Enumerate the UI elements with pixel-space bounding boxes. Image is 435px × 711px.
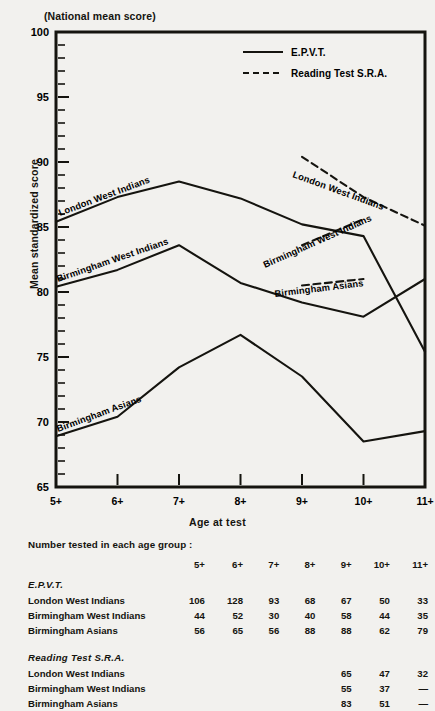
table-row: Birmingham West Indians5537— (28, 681, 428, 696)
table-cell-value (205, 681, 243, 696)
table-cell-value: 51 (352, 696, 390, 711)
counts-table-caption: Number tested in each age group : (28, 539, 192, 550)
table-group-heading: E.P.V.T. (28, 572, 428, 593)
table-row-label: Birmingham Asians (28, 623, 167, 638)
table-cell-value (167, 696, 205, 711)
table-cell-value: 79 (390, 623, 428, 638)
counts-table-head: 5+6+7+8+9+10+11+ (28, 553, 428, 572)
curve-label-sra-london: London West Indians (291, 169, 385, 211)
curve-label-epvt-birmingham-wi: Birmingham West Indians (55, 236, 169, 284)
table-cell-value: 65 (315, 666, 351, 681)
curve-label-sra-birmingham-wi: Birmingham West Indians (262, 213, 373, 270)
table-cell-value (167, 681, 205, 696)
table-row-label: Birmingham Asians (28, 696, 167, 711)
table-row: Birmingham Asians8351— (28, 696, 428, 711)
table-group-heading-row: E.P.V.T. (28, 572, 428, 593)
counts-table-body: E.P.V.T.London West Indians1061289368675… (28, 572, 428, 711)
table-cell-value (279, 681, 315, 696)
y-tick-label: 80 (37, 286, 49, 298)
table-cell-value (279, 696, 315, 711)
table-cell-value: 128 (205, 593, 243, 608)
table-cell-value: 52 (205, 608, 243, 623)
x-tick-label: 9+ (296, 495, 308, 507)
table-spacer-cell (28, 638, 428, 645)
x-tick-label: 10+ (355, 495, 373, 507)
curve-label-epvt-birmingham-asians: Birmingham Asians (55, 394, 143, 434)
legend-label-epvt: E.P.V.T. (291, 47, 326, 58)
legend: E.P.V.T. Reading Test S.R.A. (243, 47, 387, 79)
counts-table-corner (28, 553, 167, 572)
x-tick-label: 8+ (235, 495, 247, 507)
x-axis-ticks (118, 474, 364, 485)
table-cell-value (243, 696, 279, 711)
table-row-label: London West Indians (28, 666, 167, 681)
table-row: London West Indians654732 (28, 666, 428, 681)
y-axis-tick-labels: 65707580859095100 (31, 26, 49, 493)
table-cell-value: 55 (315, 681, 351, 696)
x-tick-label: 5+ (50, 495, 62, 507)
counts-col-header: 5+ (167, 553, 205, 572)
counts-col-header: 9+ (315, 553, 351, 572)
table-cell-value: 47 (352, 666, 390, 681)
table-row: Birmingham Asians56655688886279 (28, 623, 428, 638)
table-group-heading: Reading Test S.R.A. (28, 645, 428, 666)
table-cell-value (243, 681, 279, 696)
table-row-label: Birmingham West Indians (28, 608, 167, 623)
y-tick-label: 95 (37, 91, 49, 103)
table-cell-value: 68 (279, 593, 315, 608)
legend-label-sra: Reading Test S.R.A. (291, 68, 387, 79)
counts-table-header-row: 5+6+7+8+9+10+11+ (28, 553, 428, 572)
y-tick-label: 90 (37, 156, 49, 168)
table-row-label: Birmingham West Indians (28, 681, 167, 696)
x-axis-title: Age at test (0, 516, 435, 528)
table-row-label: London West Indians (28, 593, 167, 608)
counts-col-header: 8+ (279, 553, 315, 572)
table-cell-value: 88 (315, 623, 351, 638)
table-cell-value (243, 666, 279, 681)
line-chart: 65707580859095100 5+6+7+8+9+10+11+ E.P.V… (0, 0, 435, 515)
counts-col-header: 7+ (243, 553, 279, 572)
counts-col-header: 10+ (352, 553, 390, 572)
table-cell-value (279, 666, 315, 681)
table-cell-value: 56 (243, 623, 279, 638)
x-tick-label: 6+ (112, 495, 124, 507)
table-cell-value: 50 (352, 593, 390, 608)
table-cell-value: 37 (352, 681, 390, 696)
table-cell-value: 93 (243, 593, 279, 608)
curve-labels: London West Indians Birmingham West Indi… (55, 169, 385, 433)
table-cell-value: 58 (315, 608, 351, 623)
table-cell-value: 35 (390, 608, 428, 623)
table-cell-value: 44 (167, 608, 205, 623)
y-tick-label: 65 (37, 481, 49, 493)
table-cell-value: 62 (352, 623, 390, 638)
table-cell-value: 33 (390, 593, 428, 608)
table-cell-value: — (390, 696, 428, 711)
y-tick-label: 85 (37, 221, 49, 233)
table-cell-value: — (390, 681, 428, 696)
y-tick-label: 100 (31, 26, 49, 38)
table-group-heading-row: Reading Test S.R.A. (28, 645, 428, 666)
table-cell-value: 83 (315, 696, 351, 711)
table-row: London West Indians1061289368675033 (28, 593, 428, 608)
x-tick-label: 7+ (173, 495, 185, 507)
table-cell-value: 44 (352, 608, 390, 623)
x-axis-tick-labels: 5+6+7+8+9+10+11+ (50, 495, 434, 507)
y-axis-ticks (58, 32, 69, 487)
table-cell-value (167, 666, 205, 681)
series-line-2 (56, 335, 425, 442)
table-cell-value: 32 (390, 666, 428, 681)
counts-table: 5+6+7+8+9+10+11+ E.P.V.T.London West Ind… (28, 553, 428, 711)
table-cell-value (205, 696, 243, 711)
curve-label-sra-birmingham-asians: Birmingham Asians (274, 278, 364, 299)
table-cell-value: 106 (167, 593, 205, 608)
table-cell-value (205, 666, 243, 681)
counts-col-header: 6+ (205, 553, 243, 572)
x-tick-label: 11+ (416, 495, 433, 507)
counts-col-header: 11+ (390, 553, 428, 572)
table-row: Birmingham West Indians44523040584435 (28, 608, 428, 623)
table-cell-value: 30 (243, 608, 279, 623)
table-cell-value: 65 (205, 623, 243, 638)
table-cell-value: 67 (315, 593, 351, 608)
y-tick-label: 75 (37, 351, 49, 363)
